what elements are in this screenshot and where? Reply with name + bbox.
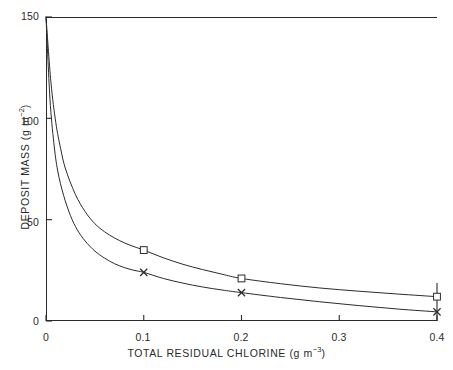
x-tick-0.1: 0.1 bbox=[123, 327, 163, 345]
y-axis-title-text: DEPOSIT MASS bbox=[19, 144, 31, 230]
chart-figure: 150 100 50 0 0 0.1 0.2 0.3 0.4 TOTAL RES… bbox=[0, 0, 453, 370]
x-axis-title-text: TOTAL RESIDUAL CHLORINE bbox=[127, 347, 286, 359]
plot-frame bbox=[46, 17, 437, 321]
y-axis-unit-exponent: −2 bbox=[17, 108, 26, 117]
x-axis-title: TOTAL RESIDUAL CHLORINE (g m−3) bbox=[0, 345, 453, 359]
x-tick-0.3: 0.3 bbox=[319, 327, 359, 345]
x-tick-label-0.4: 0.4 bbox=[429, 331, 444, 343]
y-axis-unit-base: (g m bbox=[19, 117, 31, 140]
x-tick-0.4: 0.4 bbox=[417, 327, 453, 345]
y-tick-150: 150 bbox=[8, 11, 39, 22]
x-tick-0: 0 bbox=[26, 327, 66, 345]
y-axis-title: DEPOSIT MASS (g m−2) bbox=[17, 57, 31, 277]
x-axis-unit-base: (g m bbox=[289, 347, 312, 359]
x-tick-0.2: 0.2 bbox=[221, 327, 261, 345]
x-axis-unit-close: ) bbox=[321, 347, 325, 359]
x-tick-label-0: 0 bbox=[43, 331, 49, 343]
x-tick-label-0.3: 0.3 bbox=[331, 331, 346, 343]
x-tick-label-0.2: 0.2 bbox=[233, 331, 248, 343]
y-tick-label-0: 0 bbox=[33, 316, 39, 327]
y-tick-label-150: 150 bbox=[21, 11, 39, 22]
x-tick-label-0.1: 0.1 bbox=[135, 331, 150, 343]
y-tick-0: 0 bbox=[8, 316, 39, 327]
y-axis-unit-close: ) bbox=[19, 104, 31, 108]
